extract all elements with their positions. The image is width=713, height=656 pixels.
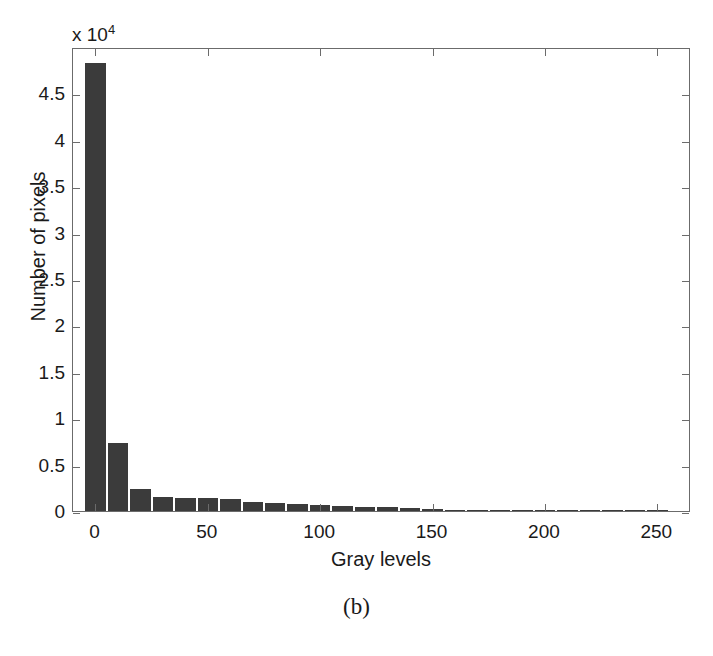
- y-axis-tick-right: [682, 188, 689, 189]
- x-axis-tick: [545, 504, 546, 511]
- y-axis-tick: [73, 467, 80, 468]
- x-axis-tick-label: 200: [528, 521, 560, 543]
- histogram-bar: [579, 510, 601, 511]
- exponent-power: 4: [108, 22, 115, 37]
- histogram-bar: [84, 63, 106, 511]
- y-axis-exponent-label: x 104: [72, 22, 115, 46]
- y-axis-tick-label: 2: [54, 315, 65, 337]
- histogram-bar: [219, 499, 241, 511]
- y-axis-tick-label: 1: [54, 408, 65, 430]
- x-axis-tick: [433, 504, 434, 511]
- x-axis-tick-top: [95, 49, 96, 56]
- histogram-bar: [399, 508, 421, 511]
- x-axis-tick-top: [545, 49, 546, 56]
- x-axis-tick-labels: 050100150200250: [72, 521, 690, 547]
- histogram-bar: [376, 507, 398, 511]
- plot-axes-box: [72, 48, 690, 512]
- y-axis-tick: [73, 374, 80, 375]
- histogram-bar: [107, 443, 129, 511]
- y-axis-tick: [73, 188, 80, 189]
- histogram-bar: [601, 510, 623, 511]
- x-axis-tick: [95, 504, 96, 511]
- figure-caption: (b): [0, 594, 713, 620]
- x-axis-tick: [320, 504, 321, 511]
- histogram-bar: [242, 502, 264, 511]
- histogram-bar: [354, 507, 376, 511]
- x-axis-tick-label: 150: [416, 521, 448, 543]
- histogram-bar: [489, 510, 511, 511]
- x-axis-tick-label: 0: [89, 521, 100, 543]
- y-axis-tick: [73, 142, 80, 143]
- x-axis-tick-label: 50: [196, 521, 217, 543]
- y-axis-tick-label: 0: [54, 501, 65, 523]
- y-axis-tick-label: 3: [54, 223, 65, 245]
- histogram-bar: [152, 497, 174, 511]
- y-axis-tick-label: 0.5: [39, 455, 65, 477]
- y-axis-tick-right: [682, 420, 689, 421]
- y-axis-tick: [73, 95, 80, 96]
- histogram-bar: [286, 504, 308, 511]
- y-axis-tick: [73, 327, 80, 328]
- y-axis-tick-right: [682, 327, 689, 328]
- histogram-bar: [264, 503, 286, 511]
- histogram-bar: [174, 498, 196, 511]
- x-axis-tick-top: [320, 49, 321, 56]
- histogram-bar: [466, 510, 488, 511]
- histogram-bar: [556, 510, 578, 511]
- y-axis-tick-right: [682, 513, 689, 514]
- y-axis-tick-right: [682, 374, 689, 375]
- y-axis-tick: [73, 513, 80, 514]
- y-axis-tick-right: [682, 235, 689, 236]
- histogram-bar: [511, 510, 533, 511]
- y-axis-tick-right: [682, 467, 689, 468]
- histogram-bar: [331, 506, 353, 511]
- histogram-bar: [129, 489, 151, 511]
- y-axis-tick-right: [682, 142, 689, 143]
- y-axis-tick-right: [682, 95, 689, 96]
- y-axis-tick: [73, 235, 80, 236]
- x-axis-tick-label: 250: [640, 521, 672, 543]
- x-axis-tick: [657, 504, 658, 511]
- histogram-bar: [444, 510, 466, 511]
- y-axis-title: Number of pixels: [27, 97, 50, 397]
- exponent-prefix: x 10: [72, 24, 108, 45]
- x-axis-tick-top: [657, 49, 658, 56]
- x-axis-tick-label: 100: [303, 521, 335, 543]
- histogram-bar: [624, 510, 646, 511]
- histogram-figure: x 104 00.511.522.533.544.5 0501001502002…: [0, 0, 713, 656]
- y-axis-tick-label: 4: [54, 130, 65, 152]
- x-axis-tick-top: [433, 49, 434, 56]
- y-axis-tick: [73, 281, 80, 282]
- x-axis-title: Gray levels: [72, 548, 690, 571]
- plot-area: [73, 49, 689, 511]
- y-axis-tick: [73, 420, 80, 421]
- x-axis-tick-top: [208, 49, 209, 56]
- y-axis-tick-right: [682, 281, 689, 282]
- x-axis-tick: [208, 504, 209, 511]
